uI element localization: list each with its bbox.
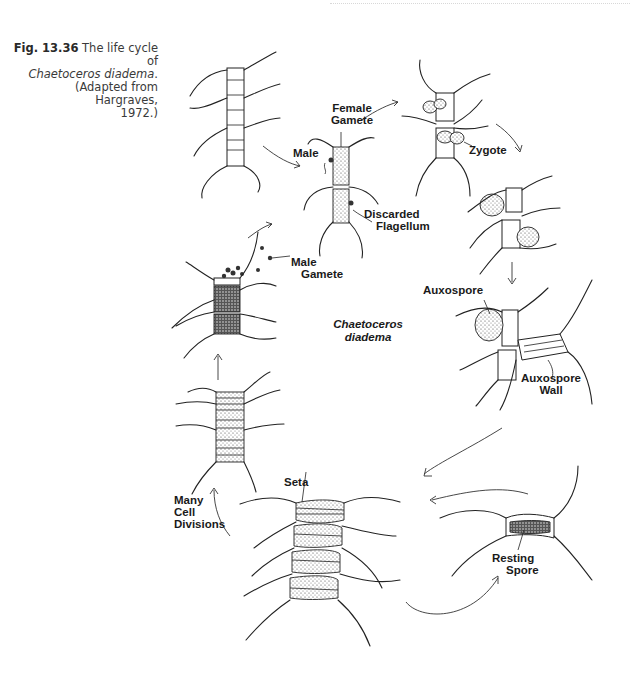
label-line: Flagellum — [364, 220, 430, 232]
stage-spermatogonia — [172, 232, 290, 358]
label-line: Resting — [492, 552, 539, 564]
label-line: Spore — [492, 564, 539, 576]
diagram-title: Chaetoceros diadema — [318, 318, 418, 344]
label-auxospore: Auxospore — [423, 284, 483, 296]
label-many-cell-divisions: Many Cell Divisions — [174, 494, 225, 530]
stage-vegetative-chain — [190, 52, 280, 198]
label-discarded-flagellum: Discarded Flagellum — [364, 208, 430, 232]
label-resting-spore: Resting Spore — [492, 552, 539, 576]
label-male: Male — [293, 147, 319, 159]
label-seta: Seta — [284, 476, 308, 488]
label-line: Divisions — [174, 518, 225, 530]
label-female-gamete: Female Gamete — [322, 102, 382, 126]
label-line: Discarded — [364, 208, 430, 220]
label-line: Many — [174, 494, 225, 506]
diagram-drawing — [0, 0, 630, 678]
diagram-title-line1: Chaetoceros — [318, 318, 418, 331]
label-line: Cell — [174, 506, 225, 518]
label-line: Male — [291, 256, 343, 268]
stage-zygote-enlargement — [468, 176, 560, 274]
label-line: Female — [322, 102, 382, 114]
label-line: Gamete — [322, 114, 382, 126]
stage-zygote — [402, 60, 490, 196]
label-line: Wall — [520, 384, 582, 396]
male-gamete-dot — [329, 158, 334, 163]
life-cycle-diagram: Female Gamete Male Discarded Flagellum M… — [0, 0, 630, 678]
stage-chain — [176, 372, 284, 494]
stage-enlarged-chain — [240, 472, 400, 646]
label-auxospore-wall: Auxospore Wall — [520, 372, 582, 396]
label-line: Gamete — [291, 268, 343, 280]
label-line: Auxospore — [520, 372, 582, 384]
label-male-gamete: Male Gamete — [291, 256, 343, 280]
diagram-title-line2: diadema — [318, 331, 418, 344]
label-zygote: Zygote — [469, 144, 507, 156]
